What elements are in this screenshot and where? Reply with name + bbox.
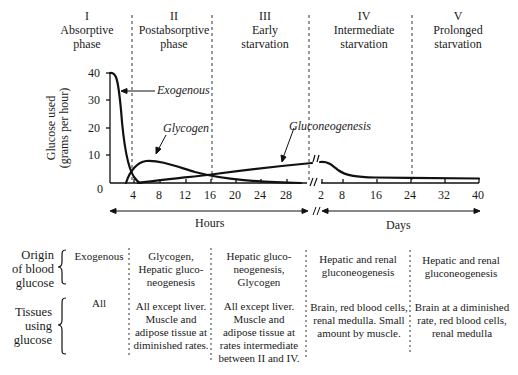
y-tick-40: 40 <box>88 66 100 81</box>
tissues-cell-phase-2: All except liver. Muscle and adipose tis… <box>130 300 212 352</box>
cell-line: amount by muscle. <box>307 327 411 340</box>
glycogen-label: Glycogen <box>163 121 209 136</box>
arrow-left-icon <box>110 209 116 214</box>
y-tick-10: 10 <box>88 148 100 163</box>
cell-line: between II and IV. <box>211 352 307 365</box>
origin-cell-phase-2: Glycogen, Hepatic gluco- neogenesis <box>131 250 211 289</box>
y-tick-20: 20 <box>88 121 100 136</box>
tissues-cell-phase-4: Brain, red blood cells, renal medulla. S… <box>307 301 411 340</box>
scale-arrows <box>110 207 480 215</box>
x-axis-days <box>321 179 479 183</box>
arrow-right-icon <box>474 209 480 214</box>
x-tick-days: 32 <box>438 188 450 203</box>
arrow-right-icon <box>302 209 308 214</box>
x-tick-days: 40 <box>472 188 484 203</box>
cell-line: All except liver. <box>211 300 307 313</box>
y-tick-0: 0 <box>97 182 103 197</box>
arrow-head-icon <box>121 89 127 94</box>
y-tick-30: 30 <box>88 93 100 108</box>
origin-cell-phase-4: Hepatic and renal gluconeogenesis <box>307 253 409 279</box>
days-label: Days <box>386 218 411 233</box>
cell-line: rates intermediate <box>211 339 307 352</box>
x-tick-hours: 24 <box>254 188 266 203</box>
x-tick-days: 8 <box>339 188 345 203</box>
cell-line: Exogenous <box>70 250 128 263</box>
cell-line: Hepatic gluco- <box>212 250 306 263</box>
cell-line: Hepatic gluco- <box>131 263 211 276</box>
glycogen-curve <box>126 161 301 183</box>
arrow-left-icon <box>322 209 328 214</box>
row-header-tissues: Tissues using glucose <box>0 305 52 347</box>
tissues-cell-phase-3: All except liver. Muscle and adipose tis… <box>211 300 307 365</box>
cell-line: adipose tissue at <box>211 326 307 339</box>
cell-line: adipose tissue at <box>130 326 212 339</box>
x-tick-hours: 28 <box>280 188 292 203</box>
row-header-line: Tissues <box>0 305 52 319</box>
cell-line: rate, red blood cells, <box>411 314 513 327</box>
cell-line: Hepatic and renal <box>307 253 409 266</box>
row-header-line: glucose <box>0 276 54 290</box>
y-axis-label-line2: (grams per hour) <box>58 88 71 169</box>
gluconeogenesis-curve-days <box>320 162 479 179</box>
cell-line: All except liver. <box>130 300 212 313</box>
cell-line: Muscle and <box>130 313 212 326</box>
cell-line: Glycogen, <box>131 250 211 263</box>
cell-line: Brain, red blood cells, <box>307 301 411 314</box>
gluconeogenesis-label: Gluconeogenesis <box>289 119 371 134</box>
x-tick-hours: 8 <box>156 188 162 203</box>
row-header-origin: Origin of blood glucose <box>0 248 54 290</box>
cell-line: Muscle and <box>211 313 307 326</box>
arrow-head-icon <box>281 155 286 162</box>
cell-line: All <box>70 297 128 310</box>
cell-line: Glycogen <box>212 276 306 289</box>
cell-line: gluconeogenesis <box>307 266 409 279</box>
cell-line: neogenesis <box>131 276 211 289</box>
row-header-line: of blood <box>0 262 54 276</box>
hours-label: Hours <box>195 216 224 231</box>
row-header-line: glucose <box>0 333 52 347</box>
origin-cell-phase-3: Hepatic gluco- neogenesis, Glycogen <box>212 250 306 289</box>
x-tick-days: 24 <box>404 188 416 203</box>
origin-cell-phase-1: Exogenous <box>70 250 128 263</box>
x-tick-hours: 4 <box>130 188 136 203</box>
tissues-cell-phase-5: Brain at a diminished rate, red blood ce… <box>411 301 513 340</box>
x-tick-hours: 20 <box>229 188 241 203</box>
gluconeogenesis-curve-hours <box>138 163 312 183</box>
cell-line: Brain at a diminished <box>411 301 513 314</box>
x-tick-days: 2 <box>318 188 324 203</box>
y-axis <box>106 73 110 183</box>
row-header-line: Origin <box>0 248 54 262</box>
origin-cell-phase-5: Hepatic and renal gluconeogenesis <box>411 254 511 280</box>
row-header-line: using <box>0 319 52 333</box>
cell-line: renal medulla <box>411 327 513 340</box>
tissues-cell-phase-1: All <box>70 297 128 310</box>
cell-line: diminished rates. <box>130 339 212 352</box>
row-braces <box>58 250 66 354</box>
x-tick-hours: 16 <box>204 188 216 203</box>
x-tick-hours: 12 <box>179 188 191 203</box>
x-tick-days: 16 <box>370 188 382 203</box>
arrow-head-icon <box>156 147 161 154</box>
cell-line: neogenesis, <box>212 263 306 276</box>
cell-line: Hepatic and renal <box>411 254 511 267</box>
phase-dividers <box>132 15 412 183</box>
axis-break-icon <box>310 155 319 186</box>
cell-line: gluconeogenesis <box>411 267 511 280</box>
brace-icon <box>58 250 66 284</box>
cell-line: renal medulla. Small <box>307 314 411 327</box>
exogenous-label: Exogenous <box>157 83 210 98</box>
brace-icon <box>58 298 66 354</box>
